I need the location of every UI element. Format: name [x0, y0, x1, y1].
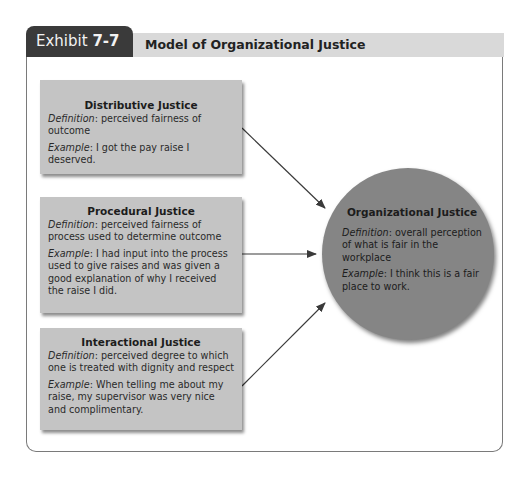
circle-title: Organizational Justice	[342, 206, 482, 219]
box-title: Procedural Justice	[48, 205, 234, 218]
procedural-justice-box: Procedural Justice Definition: perceived…	[40, 197, 242, 313]
arrow-distributive	[242, 128, 325, 208]
distributive-justice-box: Distributive Justice Definition: perceiv…	[40, 80, 242, 174]
arrow-interactional	[242, 303, 325, 386]
box-example: Example: I got the pay raise I deserved.	[48, 142, 234, 167]
box-definition: Definition: perceived degree to which on…	[48, 350, 234, 375]
box-example: Example: When telling me about my raise,…	[48, 379, 234, 417]
circle-definition: Definition: overall perception of what i…	[342, 227, 482, 265]
box-example: Example: I had input into the process us…	[48, 248, 234, 298]
box-title: Distributive Justice	[48, 99, 234, 112]
box-definition: Definition: perceived fairness of outcom…	[48, 113, 234, 138]
circle-example: Example: I think this is a fair place to…	[342, 268, 482, 293]
box-definition: Definition: perceived fairness of proces…	[48, 219, 234, 244]
interactional-justice-box: Interactional Justice Definition: percei…	[40, 328, 242, 430]
box-title: Interactional Justice	[48, 336, 234, 349]
organizational-justice-circle: Organizational Justice Definition: overa…	[322, 168, 494, 340]
